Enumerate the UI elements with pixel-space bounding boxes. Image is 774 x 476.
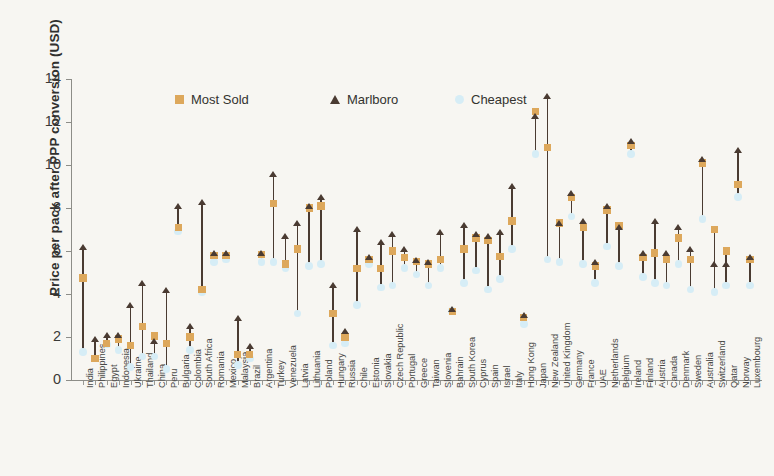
marlboro-marker (198, 199, 206, 205)
most-sold-marker (91, 355, 98, 362)
triangle-swatch-icon (330, 95, 340, 104)
marlboro-marker (639, 250, 647, 256)
legend-label: Marlboro (347, 92, 398, 107)
marlboro-marker (353, 226, 361, 232)
cheapest-marker (508, 245, 516, 253)
x-axis-tick-mark (297, 381, 298, 385)
x-axis-tick-mark (285, 381, 286, 385)
y-axis-tick-label: 6 (35, 243, 61, 258)
legend-item-cheapest[interactable]: Cheapest (455, 92, 527, 107)
most-sold-marker (723, 247, 730, 254)
most-sold-marker (544, 144, 551, 151)
marlboro-marker (591, 259, 599, 265)
cheapest-marker (258, 258, 266, 266)
most-sold-marker (103, 340, 110, 347)
marlboro-marker (555, 220, 563, 226)
cheapest-marker (615, 262, 623, 270)
marlboro-marker (615, 224, 623, 230)
marlboro-marker (508, 183, 516, 189)
marlboro-marker (496, 229, 504, 235)
x-axis-tick-mark (166, 381, 167, 385)
x-axis-tick-mark (488, 381, 489, 385)
x-axis-tick-mark (476, 381, 477, 385)
x-axis-tick-mark (571, 381, 572, 385)
cheapest-marker (329, 342, 337, 350)
x-axis-tick-mark (607, 381, 608, 385)
x-axis-tick-mark (333, 381, 334, 385)
legend-item-marlboro[interactable]: Marlboro (330, 92, 398, 107)
y-axis-tick-label: 12 (35, 114, 61, 129)
marlboro-marker (579, 218, 587, 224)
y-axis-tick-label: 4 (35, 286, 61, 301)
cheapest-marker (317, 260, 325, 268)
x-axis-tick-mark (691, 381, 692, 385)
legend-label: Cheapest (471, 92, 527, 107)
cheapest-marker (413, 271, 421, 279)
range-stem (392, 236, 394, 285)
most-sold-marker (734, 181, 741, 188)
most-sold-marker (401, 254, 408, 261)
x-axis-tick-mark (679, 381, 680, 385)
range-stem (547, 98, 549, 259)
legend-item-most-sold[interactable]: Most Sold (175, 92, 249, 107)
y-axis-tick-label: 0 (35, 372, 61, 387)
x-axis-tick-mark (381, 381, 382, 385)
cheapest-marker (699, 215, 707, 223)
x-axis-tick-mark (309, 381, 310, 385)
x-axis-tick-mark (131, 381, 132, 385)
y-axis-tick-label: 14 (35, 71, 61, 86)
most-sold-marker (663, 256, 670, 263)
x-axis-tick-mark (631, 381, 632, 385)
marlboro-marker (114, 332, 122, 338)
most-sold-marker (175, 224, 182, 231)
x-axis-tick-mark (524, 381, 525, 385)
marlboro-marker (91, 336, 99, 342)
marlboro-marker (388, 231, 396, 237)
marlboro-marker (186, 323, 194, 329)
range-stem (725, 251, 727, 285)
most-sold-marker (580, 224, 587, 231)
most-sold-marker (270, 200, 277, 207)
most-sold-marker (460, 245, 467, 252)
cheapest-marker (496, 275, 504, 283)
x-axis-tick-label: India (86, 368, 95, 388)
x-axis-tick-mark (107, 381, 108, 385)
marlboro-marker (710, 261, 718, 267)
cheapest-marker (568, 213, 576, 221)
x-axis-tick-mark (95, 381, 96, 385)
x-axis-tick-mark (643, 381, 644, 385)
most-sold-marker (341, 333, 348, 340)
cheapest-marker (591, 279, 599, 287)
most-sold-marker (687, 256, 694, 263)
marlboro-marker (543, 93, 551, 99)
marlboro-marker (567, 190, 575, 196)
x-axis-tick-mark (536, 381, 537, 385)
x-axis-tick-mark (417, 381, 418, 385)
marlboro-marker (138, 280, 146, 286)
x-axis-tick-label: Peru (170, 369, 179, 388)
x-axis-tick-mark (369, 381, 370, 385)
circle-swatch-icon (455, 95, 464, 104)
cheapest-marker (711, 288, 719, 296)
cheapest-marker (437, 264, 445, 272)
range-stem (201, 204, 203, 292)
marlboro-marker (126, 302, 134, 308)
x-axis-tick-mark (214, 381, 215, 385)
range-stem (297, 225, 299, 313)
x-axis-tick-mark (500, 381, 501, 385)
x-axis-tick-mark (178, 381, 179, 385)
x-axis-tick-mark (738, 381, 739, 385)
most-sold-marker (198, 286, 205, 293)
most-sold-marker (163, 340, 170, 347)
marlboro-marker (281, 233, 289, 239)
x-axis-tick-mark (440, 381, 441, 385)
marlboro-marker (162, 287, 170, 293)
range-stem (618, 225, 620, 266)
marlboro-marker (400, 246, 408, 252)
cheapest-marker (186, 346, 194, 354)
cheapest-marker (556, 258, 564, 266)
marlboro-marker (436, 229, 444, 235)
marlboro-marker (365, 254, 373, 260)
marlboro-marker (531, 113, 539, 119)
most-sold-marker (282, 260, 289, 267)
